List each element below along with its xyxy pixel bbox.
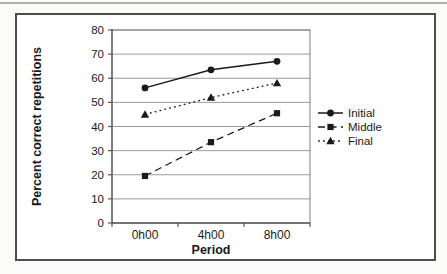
y-tick-label: 50 (91, 96, 104, 108)
data-point-circle (208, 66, 215, 73)
y-tick-label: 40 (91, 121, 104, 133)
x-tick-label: 0h00 (132, 228, 159, 242)
y-tick-label: 10 (91, 193, 104, 205)
data-point-circle (327, 110, 334, 117)
data-point-square (208, 139, 214, 145)
y-tick-label: 80 (91, 24, 104, 36)
data-point-square (142, 173, 148, 179)
data-point-circle (142, 85, 149, 92)
line-chart-svg: 010203040506070800h004h008h00PeriodPerce… (17, 15, 434, 259)
x-tick-label: 8h00 (264, 228, 291, 242)
x-tick-label: 4h00 (198, 228, 225, 242)
data-point-square (327, 124, 333, 130)
page-top-rule (0, 2, 447, 4)
data-point-triangle (273, 79, 281, 86)
series-line-initial (145, 61, 277, 88)
legend-label-initial: Initial (348, 107, 375, 119)
y-tick-label: 20 (91, 169, 104, 181)
y-tick-label: 0 (98, 217, 104, 229)
legend-label-final: Final (348, 135, 373, 147)
data-point-triangle (141, 110, 149, 117)
y-tick-label: 30 (91, 145, 104, 157)
legend-label-middle: Middle (348, 121, 382, 133)
y-axis-title: Percent correct repetitions (30, 47, 44, 206)
x-axis-title: Period (192, 243, 231, 257)
data-point-circle (274, 58, 281, 65)
y-tick-label: 60 (91, 72, 104, 84)
data-point-square (274, 110, 280, 116)
chart-frame: 010203040506070800h004h008h00PeriodPerce… (15, 13, 436, 261)
y-tick-label: 70 (91, 48, 104, 60)
